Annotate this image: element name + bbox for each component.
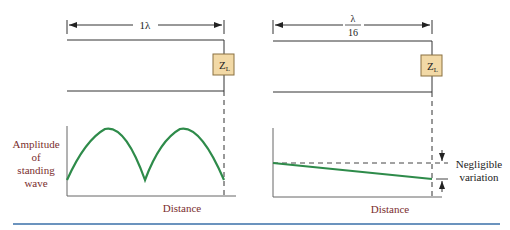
y-label-line3: standing [17, 164, 55, 176]
y-label-line2: of [31, 151, 41, 163]
left-x-label: Distance [163, 202, 202, 214]
y-label-line1: Amplitude [12, 138, 59, 150]
left-length-label: 1λ [140, 19, 152, 31]
right-length-denominator: 16 [348, 27, 358, 38]
right-x-label: Distance [371, 203, 410, 215]
left-load-sub: L [226, 65, 230, 73]
right-length-numerator: λ [351, 13, 356, 24]
standing-wave-diagram: 1λ ZL Amplitude of standing wave Distanc… [0, 0, 510, 230]
left-standing-wave-graph: Amplitude of standing wave Distance [12, 126, 236, 214]
y-label-line4: wave [24, 177, 47, 189]
right-load-sub: L [434, 66, 438, 74]
right-amplitude-curve [273, 163, 432, 179]
right-standing-wave-graph: Negligible variation Distance [273, 128, 502, 215]
right-line-diagram: λ 16 ZL [273, 13, 442, 197]
left-line-diagram: 1λ ZL [67, 19, 234, 196]
annotation-line1: Negligible [456, 158, 503, 170]
annotation-line2: variation [459, 171, 499, 183]
left-standing-wave-curve [67, 129, 224, 180]
